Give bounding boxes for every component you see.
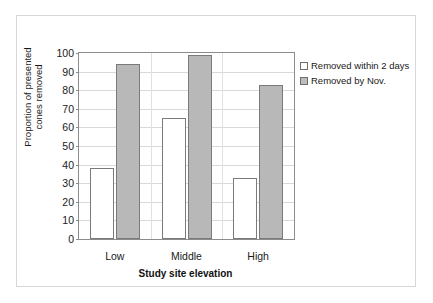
chart-figure: Proportion of presented cones removed 01… [0,0,433,303]
y-tick-mark [76,109,79,110]
y-tick-mark [76,220,79,221]
x-tick-label: Middle [171,250,202,262]
legend-item: Removed within 2 days [300,60,409,71]
category-separator [222,53,223,239]
y-tick-label: 40 [44,159,74,171]
legend-swatch-icon [300,62,308,70]
y-tick-label: 20 [44,196,74,208]
bar-middle-series-0 [162,118,186,239]
legend-label: Removed within 2 days [311,60,409,71]
y-tick-mark [76,72,79,73]
y-tick-label: 90 [44,66,74,78]
y-tick-label: 100 [44,47,74,59]
y-tick-label: 60 [44,121,74,133]
y-axis-title-line-2: cones removed [33,65,45,130]
y-tick-mark [76,90,79,91]
bar-low-series-0 [90,168,114,239]
y-tick-mark [76,202,79,203]
y-tick-mark [76,53,79,54]
y-tick-label: 0 [44,233,74,245]
y-axis-title-line-1: Proportion of presented [22,47,34,146]
legend-swatch-icon [300,77,308,85]
y-tick-label: 70 [44,103,74,115]
y-tick-mark [76,127,79,128]
y-tick-mark [76,146,79,147]
x-axis-title: Study site elevation [78,268,293,279]
y-tick-label: 30 [44,177,74,189]
bar-low-series-1 [116,64,140,239]
bar-high-series-1 [259,85,283,239]
legend-label: Removed by Nov. [311,75,386,86]
y-tick-label: 50 [44,140,74,152]
y-tick-label: 10 [44,214,74,226]
x-tick-label: Low [105,250,124,262]
bar-middle-series-1 [188,55,212,239]
category-separator [151,53,152,239]
chart-legend: Removed within 2 daysRemoved by Nov. [300,60,409,86]
y-tick-mark [76,165,79,166]
y-tick-label: 80 [44,84,74,96]
plot-area: 0102030405060708090100LowMiddleHigh [78,52,295,240]
bar-high-series-0 [233,178,257,239]
gridline [79,72,294,73]
y-tick-mark [76,183,79,184]
y-tick-mark [76,239,79,240]
y-axis-title: Proportion of presented cones removed [20,2,46,192]
x-tick-label: High [247,250,269,262]
legend-item: Removed by Nov. [300,75,409,86]
